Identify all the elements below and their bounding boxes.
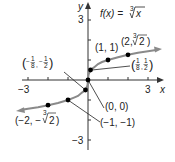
label-2-cbrt2: (2, 3 2 ) — [121, 32, 150, 47]
svg-text:): ) — [147, 36, 150, 47]
point-eighth — [88, 68, 93, 73]
label-neg1-neg1: (−1, −1) — [100, 117, 135, 128]
leader-neg-one — [68, 100, 100, 122]
function-radicand: x — [135, 8, 142, 19]
svg-text:−: − — [26, 58, 30, 65]
x-axis: −3 3 x — [18, 77, 166, 95]
svg-text:2: 2 — [49, 115, 55, 126]
curve-right-arrow-icon — [154, 47, 162, 53]
function-radical-index: 3 — [130, 5, 134, 12]
svg-text:,: , — [36, 61, 38, 68]
label-neg-eighth-neg-half: ( − 1 8 , − 1 2 ) — [22, 55, 53, 70]
svg-text:8: 8 — [31, 62, 35, 69]
svg-text:2: 2 — [44, 62, 48, 69]
svg-text:8: 8 — [136, 64, 140, 71]
function-label: f(x) = 3 x — [100, 5, 145, 19]
function-name: f(x) = — [100, 8, 123, 19]
label-1-1: (1, 1) — [95, 42, 118, 53]
y-axis-label: y — [77, 1, 84, 12]
point-neg2 — [46, 103, 51, 108]
svg-text:): ) — [49, 55, 53, 70]
curve-left-arrow-icon — [16, 107, 25, 113]
svg-text:(2,: (2, — [121, 36, 133, 47]
x-tick-label-neg3: −3 — [18, 84, 30, 95]
leader-origin — [88, 80, 104, 108]
label-origin: (0, 0) — [105, 101, 128, 112]
svg-text:2: 2 — [139, 36, 145, 47]
leader-eighth — [92, 66, 130, 70]
svg-text:−: − — [39, 58, 43, 65]
point-two — [126, 52, 131, 57]
point-one — [106, 58, 111, 63]
svg-text:(−2, −: (−2, − — [15, 115, 41, 126]
svg-text:2: 2 — [144, 64, 148, 71]
svg-text:3: 3 — [133, 32, 137, 39]
svg-text:1: 1 — [31, 55, 35, 62]
y-tick-label-3: 3 — [78, 14, 84, 25]
svg-text:1: 1 — [144, 57, 148, 64]
svg-text:1: 1 — [44, 55, 48, 62]
svg-text:): ) — [56, 115, 59, 126]
svg-text:1: 1 — [136, 57, 140, 64]
svg-text:,: , — [141, 63, 143, 70]
svg-text:): ) — [149, 57, 153, 72]
point-origin — [86, 78, 91, 83]
svg-text:3: 3 — [43, 109, 47, 116]
cube-root-graph: −3 3 x 3 −3 y f(x) = 3 x — [0, 0, 175, 162]
point-neg1 — [66, 98, 71, 103]
x-axis-arrow-icon — [157, 77, 164, 83]
leader-neg-eighth — [64, 72, 86, 90]
y-tick-label-neg3: −3 — [72, 135, 84, 146]
point-neg-eighth — [83, 88, 88, 93]
x-axis-label: x — [159, 84, 166, 95]
y-axis-arrow-icon — [85, 2, 91, 9]
label-eighth-half: ( 1 8 , 1 2 ) — [131, 57, 153, 72]
x-tick-label-3: 3 — [145, 84, 151, 95]
